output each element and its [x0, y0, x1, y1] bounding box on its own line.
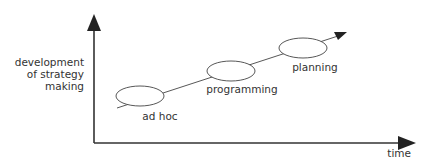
strategy-development-diagram: development of strategy making time ad h…	[0, 0, 440, 165]
y-axis-label-line-3: making	[45, 80, 84, 92]
stage-programming: programming	[206, 61, 277, 95]
x-axis	[94, 136, 416, 150]
stage-programming-ellipse	[207, 61, 255, 81]
x-axis-label: time	[387, 147, 411, 159]
trend-arrow-icon	[334, 32, 347, 40]
y-axis	[87, 14, 101, 143]
y-axis-label-line-2: of strategy	[27, 68, 84, 80]
stage-planning-ellipse	[279, 38, 327, 58]
y-axis-label: development of strategy making	[15, 56, 84, 92]
stage-ad-hoc-label: ad hoc	[142, 110, 178, 122]
y-axis-label-line-1: development	[15, 56, 84, 68]
stage-planning-label: planning	[292, 61, 338, 73]
y-axis-arrow-icon	[87, 14, 101, 31]
stage-ad-hoc-ellipse	[116, 86, 164, 106]
stage-planning: planning	[279, 38, 338, 73]
stage-programming-label: programming	[206, 83, 277, 95]
